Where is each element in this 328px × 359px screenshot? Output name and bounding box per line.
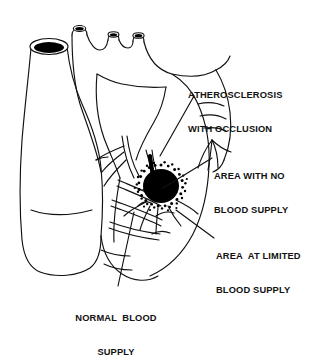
label-limited-blood-supply-line1: AREA AT LIMITED [216,251,301,262]
label-normal-blood-supply: NORMAL BLOOD SUPPLY [54,290,178,359]
label-normal-blood-supply-line2: SUPPLY [54,347,178,358]
label-limited-blood-supply: AREA AT LIMITED BLOOD SUPPLY [216,228,301,319]
label-no-blood-supply: AREA WITH NO BLOOD SUPPLY [214,148,288,239]
leader-limited-blood-supply [176,210,214,238]
label-atherosclerosis: ATHEROSCLEROSIS WITH OCCLUSION [188,67,283,158]
label-atherosclerosis-line2: WITH OCCLUSION [188,124,283,135]
label-limited-blood-supply-line2: BLOOD SUPPLY [216,285,301,296]
label-normal-blood-supply-line1: NORMAL BLOOD [54,313,178,324]
infarct-zone [143,169,179,203]
svc-lumen [30,39,68,55]
superior-vena-cava [20,47,102,275]
label-atherosclerosis-line1: ATHEROSCLEROSIS [188,90,283,101]
infarct-border-vessels [124,200,198,234]
label-no-blood-supply-line2: BLOOD SUPPLY [214,205,288,216]
leader-normal-blood-supply [118,212,134,286]
aortic-branch-stubs [73,26,144,39]
label-no-blood-supply-line1: AREA WITH NO [214,171,288,182]
pulmonary-trunk [96,74,166,178]
